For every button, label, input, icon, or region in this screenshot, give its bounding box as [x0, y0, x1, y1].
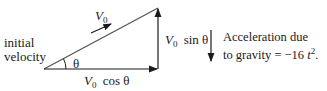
initial-velocity-label: initial velocity — [4, 36, 46, 64]
gravity-prefix: to gravity = −16 — [223, 48, 307, 62]
v-symbol: V — [84, 73, 92, 88]
v-symbol: V — [165, 32, 173, 47]
hypotenuse-label: V0 — [95, 9, 107, 27]
gravity-line2: to gravity = −16 t2. — [223, 44, 318, 62]
cos-text: cos θ — [103, 73, 130, 88]
period: . — [315, 48, 318, 62]
subscript: 0 — [92, 80, 97, 90]
initial-text: initial — [4, 36, 46, 50]
gravity-line1: Acceleration due — [223, 30, 318, 44]
gravity-note: Acceleration due to gravity = −16 t2. — [223, 30, 318, 62]
vertical-component-label: V0 sin θ — [165, 33, 208, 51]
v-symbol: V — [95, 8, 103, 23]
subscript: 0 — [103, 15, 108, 25]
horizontal-component-label: V0 cos θ — [84, 74, 130, 91]
sin-text: sin θ — [184, 32, 209, 47]
subscript: 0 — [173, 39, 178, 49]
angle-label: θ — [73, 57, 79, 70]
angle-arc — [64, 59, 67, 69]
velocity-text: velocity — [4, 50, 46, 64]
